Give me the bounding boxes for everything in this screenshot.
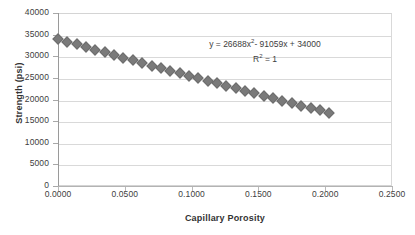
value-axis-tick [53,164,58,165]
category-axis-tick-label: 0.2000 [295,190,355,199]
value-axis-tick [53,143,58,144]
category-axis-tick-label: 0.1500 [228,190,288,199]
value-axis-tick-label: 40000 [25,8,49,17]
value-axis-tick-label: 35000 [25,30,49,39]
chart-container: 0500010000150002000025000300003500040000… [0,0,415,235]
value-axis-title: Strength (psi) [14,38,24,148]
equation-prefix: y = 26688x [209,39,251,49]
value-axis-tick [53,100,58,101]
value-axis-tick [53,13,58,14]
value-axis-tick-label: 20000 [25,95,49,104]
gridline [59,144,391,145]
category-axis-title: Capillary Porosity [58,213,392,223]
value-axis-tick-label: 15000 [25,116,49,125]
r-squared-suffix: = 1 [263,54,277,64]
category-axis-tick-label: 0.0000 [28,190,88,199]
value-axis-tick-label: 30000 [25,51,49,60]
category-axis-line [58,186,393,187]
value-axis-tick-label: 5000 [30,159,49,168]
r-squared-line: R2 = 1 [185,50,345,65]
value-axis-tick-label: 10000 [25,138,49,147]
equation-suffix: - 91059x + 34000 [254,39,320,49]
category-axis-tick-label: 0.1000 [162,190,222,199]
category-axis-tick-label: 0.2500 [362,190,415,199]
trendline-equation-line: y = 26688x2- 91059x + 34000 [185,35,345,50]
gridline [59,165,391,166]
value-axis-tick [53,56,58,57]
category-axis-tick-label: 0.0500 [95,190,155,199]
value-axis-tick [53,121,58,122]
value-axis-tick-label: 25000 [25,73,49,82]
gridline [59,101,391,102]
gridline [59,122,391,123]
trendline-equation-label: y = 26688x2- 91059x + 34000 R2 = 1 [185,35,345,65]
value-axis-tick [53,78,58,79]
